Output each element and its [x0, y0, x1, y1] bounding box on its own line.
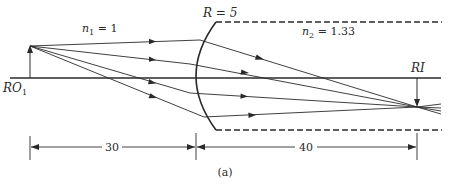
ray-1	[30, 40, 441, 114]
image-arrowhead-icon	[414, 99, 420, 107]
image-label: RI	[410, 61, 425, 75]
arrow-icon	[148, 79, 156, 84]
arrow-icon	[149, 93, 158, 98]
arrow-icon	[255, 55, 264, 60]
radius-label: R = 5	[202, 6, 237, 20]
n1-label: n1 = 1	[82, 22, 117, 37]
ray-3	[30, 46, 441, 108]
arrow-icon	[240, 93, 248, 98]
object-label: RO1	[2, 81, 27, 97]
image-distance-label: 40	[299, 141, 313, 154]
figure-caption: (a)	[217, 166, 232, 179]
object-distance-label: 30	[105, 141, 119, 154]
optics-diagram: 30 40 n1 = 1 n2 = 1.33 R = 5 RO1 RI (a)	[0, 0, 449, 192]
ray-4	[30, 46, 441, 117]
arrow-icon	[149, 56, 156, 61]
arrow-icon	[149, 39, 156, 44]
spherical-surface	[196, 22, 216, 130]
arrow-icon	[241, 69, 250, 74]
arrow-icon	[248, 113, 256, 118]
n2-label: n2 = 1.33	[302, 25, 355, 40]
dimension-markers	[30, 133, 417, 160]
